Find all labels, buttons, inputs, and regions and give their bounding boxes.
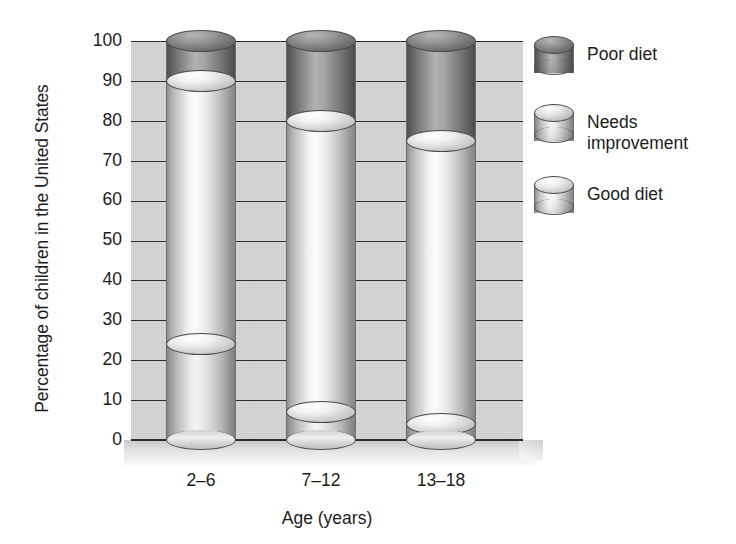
cylinder-top-cap [166, 30, 236, 52]
bar-segment-poor-diet-13-18 [406, 41, 476, 141]
y-axis-title: Percentage of children in the United Sta… [32, 39, 53, 459]
y-tick-0: 0 [60, 431, 122, 449]
y-tick-90: 90 [60, 72, 122, 90]
cylinder-bottom-cap [406, 430, 476, 450]
swatch-bottom [534, 59, 574, 75]
x-tick-13-18: 13–18 [371, 470, 511, 491]
swatch-cap [534, 36, 574, 54]
x-tick-7-12: 7–12 [251, 470, 391, 491]
cylinder-mid-icon [534, 104, 574, 144]
legend-label-poor-diet: Poor diet [587, 36, 657, 65]
y-tick-40: 40 [60, 271, 122, 289]
cylinder-light-icon [534, 176, 574, 216]
cylinder-bottom-cap [286, 430, 356, 450]
cylinder-top-cap [406, 30, 476, 52]
legend-item-needs-improvement: Needs improvement [534, 104, 688, 154]
segment-body [166, 344, 236, 440]
y-tick-30: 30 [60, 311, 122, 329]
cylinder-bottom-cap [166, 430, 236, 450]
legend-label-needs-improvement: Needs improvement [587, 104, 688, 154]
cylinder-top-cap [286, 30, 356, 52]
bar-segment-good-diet-7-12 [286, 412, 356, 440]
legend-label-good-diet: Good diet [587, 176, 663, 205]
cylinder-divider-cap [166, 70, 236, 92]
swatch-cap [534, 104, 574, 122]
bar-group-13-18 [406, 41, 476, 440]
bar-segment-good-diet-2-6 [166, 344, 236, 440]
cylinder-dark-icon [534, 36, 574, 76]
segment-body [406, 141, 476, 424]
cylinder-divider-cap [286, 401, 356, 423]
x-tick-2-6: 2–6 [131, 470, 271, 491]
x-axis-title: Age (years) [131, 508, 523, 529]
bar-segment-good-diet-13-18 [406, 424, 476, 440]
swatch-cap [534, 176, 574, 194]
segment-body [286, 121, 356, 412]
y-tick-80: 80 [60, 112, 122, 130]
segment-body [406, 41, 476, 141]
cylinder-divider-cap [406, 130, 476, 152]
bar-segment-needs-improvement-2-6 [166, 81, 236, 344]
chart-floor-right [519, 440, 543, 460]
y-tick-20: 20 [60, 351, 122, 369]
y-axis-tick-labels: 100 90 80 70 60 50 40 30 20 10 0 [60, 30, 122, 450]
swatch-bottom [534, 199, 574, 215]
y-tick-10: 10 [60, 391, 122, 409]
segment-body [286, 41, 356, 121]
bar-group-7-12 [286, 41, 356, 440]
bar-group-2-6 [166, 41, 236, 440]
y-tick-50: 50 [60, 231, 122, 249]
y-tick-70: 70 [60, 152, 122, 170]
legend-item-poor-diet: Poor diet [534, 36, 657, 76]
y-tick-60: 60 [60, 191, 122, 209]
bar-segment-poor-diet-7-12 [286, 41, 356, 121]
legend-item-good-diet: Good diet [534, 176, 663, 216]
chart-figure: Percentage of children in the United Sta… [0, 0, 736, 544]
cylinder-divider-cap [286, 110, 356, 132]
bar-segment-needs-improvement-7-12 [286, 121, 356, 412]
segment-body [166, 81, 236, 344]
bar-segment-needs-improvement-13-18 [406, 141, 476, 424]
y-tick-100: 100 [60, 32, 122, 50]
swatch-bottom [534, 127, 574, 143]
